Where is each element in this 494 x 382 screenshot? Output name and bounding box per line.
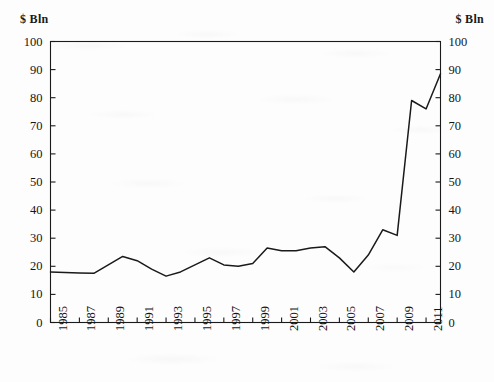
y-tick-label-right: 100 xyxy=(449,36,475,49)
y-tick-label-left: 20 xyxy=(17,260,43,273)
y-tick-label-right: 40 xyxy=(449,204,475,217)
plot-frame xyxy=(51,42,441,323)
line-chart-figure: $ Bln $ Bln 0102030405060708090100 01020… xyxy=(0,0,494,382)
y-tick-label-left: 0 xyxy=(17,317,43,330)
y-tick-label-right: 80 xyxy=(449,92,475,105)
x-tick-label: 1989 xyxy=(113,306,128,331)
x-tick-label: 2011 xyxy=(431,306,446,331)
x-tick-label: 2009 xyxy=(402,306,417,331)
y-tick-label-left: 90 xyxy=(17,64,43,77)
y-tick-label-right: 60 xyxy=(449,148,475,161)
y-tick-label-left: 10 xyxy=(17,288,43,301)
y-tick-label-left: 80 xyxy=(17,92,43,105)
data-line-value xyxy=(51,74,441,276)
x-tick-label: 2007 xyxy=(373,306,388,331)
y-tick-label-left: 70 xyxy=(17,120,43,133)
x-tick-label: 1999 xyxy=(258,306,273,331)
y-tick-label-right: 0 xyxy=(449,317,475,330)
x-tick-label: 1985 xyxy=(56,306,71,331)
x-tick-label: 2005 xyxy=(344,306,359,331)
y-tick-label-left: 30 xyxy=(17,232,43,245)
y-tick-label-right: 10 xyxy=(449,288,475,301)
x-tick-label: 1987 xyxy=(84,306,99,331)
x-tick-label: 2001 xyxy=(287,306,302,331)
y-tick-label-left: 50 xyxy=(17,176,43,189)
y-tick-label-right: 50 xyxy=(449,176,475,189)
y-tick-label-right: 70 xyxy=(449,120,475,133)
y-tick-label-left: 100 xyxy=(17,36,43,49)
y-tick-label-right: 20 xyxy=(449,260,475,273)
x-tick-label: 2003 xyxy=(316,306,331,331)
plot-canvas xyxy=(0,0,494,382)
x-tick-label: 1997 xyxy=(229,306,244,331)
y-tick-label-right: 90 xyxy=(449,64,475,77)
y-tick-label-left: 40 xyxy=(17,204,43,217)
x-tick-label: 1991 xyxy=(142,306,157,331)
y-tick-label-left: 60 xyxy=(17,148,43,161)
x-tick-label: 1993 xyxy=(171,306,186,331)
x-tick-label: 1995 xyxy=(200,306,215,331)
y-tick-label-right: 30 xyxy=(449,232,475,245)
